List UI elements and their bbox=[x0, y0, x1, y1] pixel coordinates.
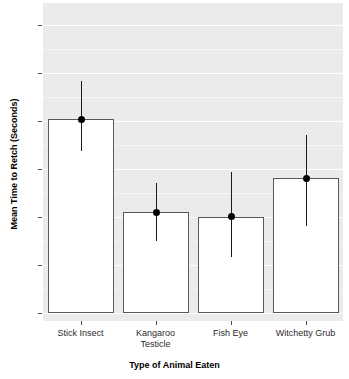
x-tick-mark bbox=[81, 321, 82, 325]
y-tick-mark bbox=[38, 265, 42, 266]
x-tick-label: Witchetty Grub bbox=[256, 328, 349, 339]
data-point-marker bbox=[153, 209, 160, 216]
plot-panel bbox=[43, 3, 343, 321]
data-point-marker bbox=[78, 116, 85, 123]
y-tick-mark bbox=[38, 217, 42, 218]
x-tick-mark bbox=[231, 321, 232, 325]
y-tick-mark bbox=[38, 25, 42, 26]
y-tick-mark bbox=[38, 169, 42, 170]
x-tick-label-line: Testicle bbox=[106, 339, 206, 350]
y-tick-mark bbox=[38, 121, 42, 122]
x-tick-mark bbox=[156, 321, 157, 325]
y-tick-mark bbox=[38, 313, 42, 314]
gridline-major bbox=[43, 25, 343, 26]
gridline-minor bbox=[43, 97, 343, 98]
data-point-marker bbox=[303, 175, 310, 182]
y-tick-mark bbox=[38, 73, 42, 74]
x-axis-title: Type of Animal Eaten bbox=[0, 360, 349, 370]
gridline-minor bbox=[43, 49, 343, 50]
y-axis-title: Mean Time to Retch (Seconds) bbox=[9, 89, 19, 239]
bar-chart: Mean Time to Retch (Seconds) 024681012 S… bbox=[0, 0, 349, 379]
gridline-major bbox=[43, 313, 343, 314]
x-tick-mark bbox=[306, 321, 307, 325]
x-tick-label-line: Witchetty Grub bbox=[256, 328, 349, 339]
gridline-major bbox=[43, 73, 343, 74]
